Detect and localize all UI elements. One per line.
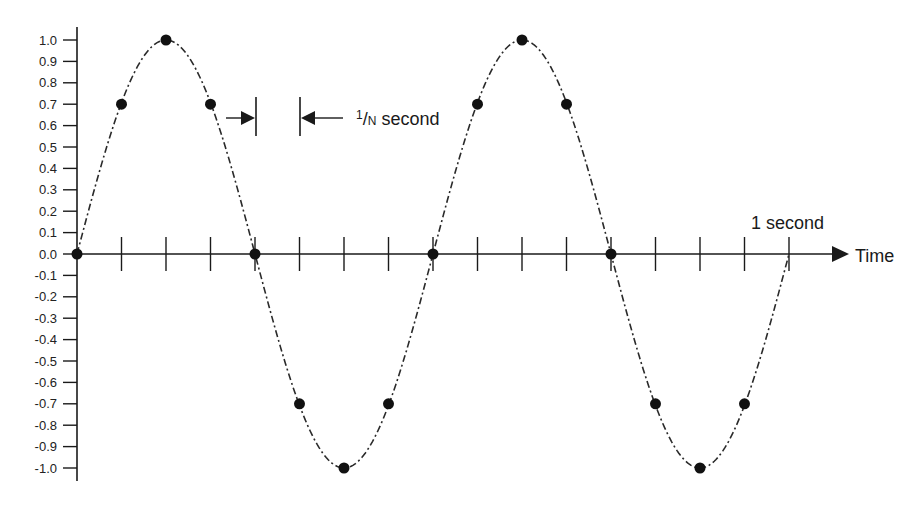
y-tick-label: 0.6 [39, 118, 57, 133]
sample-point [472, 99, 483, 110]
y-tick-label: -0.1 [35, 268, 57, 283]
y-tick-label: -0.4 [35, 332, 57, 347]
y-tick-label: 0.1 [39, 225, 57, 240]
x-axis [77, 237, 849, 271]
y-tick-label: 0.7 [39, 97, 57, 112]
sample-point [428, 249, 439, 260]
sample-point [294, 398, 305, 409]
y-tick-label: -0.2 [35, 289, 57, 304]
x-axis-arrow-icon [832, 246, 849, 262]
y-tick-label: 1.0 [39, 33, 57, 48]
y-tick-label: -0.8 [35, 418, 57, 433]
y-tick-label: 0.8 [39, 75, 57, 90]
y-tick-label: 0.4 [39, 161, 57, 176]
one-second-label: 1 second [751, 213, 824, 233]
y-tick-label: -0.5 [35, 354, 57, 369]
sample-point [250, 249, 261, 260]
sample-point [650, 398, 661, 409]
y-tick-label: -0.7 [35, 396, 57, 411]
y-tick-label: 0.9 [39, 54, 57, 69]
y-tick-label: 0.0 [39, 247, 57, 262]
sample-point [383, 398, 394, 409]
sample-point [72, 249, 83, 260]
sample-point [695, 463, 706, 474]
time-axis-label: Time [855, 246, 894, 266]
sample-point [561, 99, 572, 110]
sample-point [205, 99, 216, 110]
y-tick-label: 0.3 [39, 182, 57, 197]
sample-point [739, 398, 750, 409]
sample-point [339, 463, 350, 474]
interval-word: second [381, 109, 439, 129]
y-tick-label: 0.5 [39, 140, 57, 155]
arrow-left-icon [301, 111, 315, 125]
sample-point [116, 99, 127, 110]
y-tick-label: -0.6 [35, 375, 57, 390]
sample-interval-annotation: 1/Nsecond [226, 97, 439, 136]
y-tick-label: -1.0 [35, 461, 57, 476]
sample-point [161, 35, 172, 46]
arrow-right-icon [241, 111, 255, 125]
sample-point [517, 35, 528, 46]
y-tick-label: -0.3 [35, 311, 57, 326]
y-tick-label: 0.2 [39, 204, 57, 219]
y-tick-label: -0.9 [35, 439, 57, 454]
sample-point [606, 249, 617, 260]
interval-sub: N [368, 114, 377, 128]
interval-label: 1/Nsecond [356, 108, 439, 129]
y-axis: 1.00.90.80.70.60.50.40.30.20.10.0-0.1-0.… [35, 27, 77, 481]
sampling-chart: 1.00.90.80.70.60.50.40.30.20.10.0-0.1-0.… [0, 0, 923, 506]
